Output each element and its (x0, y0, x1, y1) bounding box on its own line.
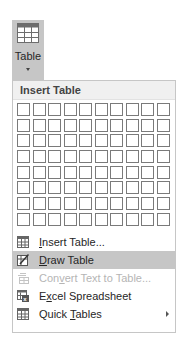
grid-cell[interactable] (157, 150, 170, 163)
menu-item-label: Quick Tables (39, 305, 102, 323)
grid-cell[interactable] (79, 181, 92, 194)
grid-cell[interactable] (17, 134, 30, 147)
insert-table-dropdown: Insert Table Insert Table... Draw Table (12, 80, 176, 333)
grid-cell[interactable] (64, 213, 77, 226)
grid-cell[interactable] (95, 197, 108, 210)
grid-cell[interactable] (64, 103, 77, 116)
grid-cell[interactable] (110, 119, 123, 132)
grid-cell[interactable] (141, 134, 154, 147)
grid-cell[interactable] (48, 103, 61, 116)
grid-cell[interactable] (157, 119, 170, 132)
grid-cell[interactable] (48, 213, 61, 226)
grid-cell[interactable] (33, 166, 46, 179)
quick-tables-icon (17, 308, 29, 320)
menu-item-draw-table[interactable]: Draw Table (13, 251, 175, 269)
grid-cell[interactable] (126, 213, 139, 226)
grid-cell[interactable] (110, 103, 123, 116)
table-button-label: Table (12, 50, 44, 62)
grid-cell[interactable] (79, 119, 92, 132)
grid-cell[interactable] (48, 134, 61, 147)
chevron-down-icon (26, 68, 30, 71)
table-icon (17, 23, 39, 43)
grid-cell[interactable] (126, 181, 139, 194)
grid-cell[interactable] (141, 181, 154, 194)
grid-cell[interactable] (126, 103, 139, 116)
excel-spreadsheet-icon: x (17, 290, 29, 302)
grid-cell[interactable] (33, 119, 46, 132)
grid-cell[interactable] (79, 197, 92, 210)
grid-cell[interactable] (17, 181, 30, 194)
grid-cell[interactable] (17, 119, 30, 132)
grid-cell[interactable] (95, 119, 108, 132)
grid-cell[interactable] (126, 150, 139, 163)
insert-table-icon (17, 236, 29, 248)
grid-cell[interactable] (141, 197, 154, 210)
grid-cell[interactable] (126, 197, 139, 210)
grid-cell[interactable] (157, 197, 170, 210)
grid-cell[interactable] (126, 134, 139, 147)
menu-item-convert-text-to-table[interactable]: Convert Text to Table... (13, 269, 175, 287)
grid-cell[interactable] (110, 166, 123, 179)
menu-item-insert-table[interactable]: Insert Table... (13, 233, 175, 251)
grid-cell[interactable] (33, 150, 46, 163)
grid-cell[interactable] (79, 213, 92, 226)
grid-cell[interactable] (48, 181, 61, 194)
table-size-grid[interactable] (17, 103, 170, 226)
grid-cell[interactable] (95, 166, 108, 179)
grid-cell[interactable] (110, 197, 123, 210)
grid-cell[interactable] (33, 181, 46, 194)
grid-cell[interactable] (79, 103, 92, 116)
grid-cell[interactable] (64, 134, 77, 147)
grid-cell[interactable] (48, 166, 61, 179)
menu-item-quick-tables[interactable]: Quick Tables (13, 305, 175, 323)
grid-cell[interactable] (95, 134, 108, 147)
grid-cell[interactable] (33, 134, 46, 147)
grid-cell[interactable] (48, 197, 61, 210)
grid-cell[interactable] (33, 197, 46, 210)
grid-cell[interactable] (141, 213, 154, 226)
grid-cell[interactable] (48, 119, 61, 132)
grid-cell[interactable] (126, 166, 139, 179)
grid-cell[interactable] (157, 166, 170, 179)
grid-cell[interactable] (157, 181, 170, 194)
grid-cell[interactable] (64, 150, 77, 163)
grid-cell[interactable] (79, 166, 92, 179)
grid-cell[interactable] (95, 181, 108, 194)
submenu-arrow-icon (166, 311, 169, 317)
grid-cell[interactable] (95, 213, 108, 226)
grid-cell[interactable] (33, 213, 46, 226)
draw-table-icon (17, 254, 29, 266)
table-ribbon-button[interactable]: Table (12, 20, 44, 81)
grid-cell[interactable] (141, 119, 154, 132)
grid-cell[interactable] (79, 150, 92, 163)
grid-cell[interactable] (33, 103, 46, 116)
grid-cell[interactable] (126, 119, 139, 132)
grid-cell[interactable] (110, 213, 123, 226)
grid-cell[interactable] (95, 150, 108, 163)
grid-cell[interactable] (64, 166, 77, 179)
convert-text-icon (17, 272, 29, 284)
grid-cell[interactable] (17, 103, 30, 116)
grid-cell[interactable] (17, 166, 30, 179)
grid-cell[interactable] (64, 197, 77, 210)
grid-cell[interactable] (157, 213, 170, 226)
grid-cell[interactable] (141, 150, 154, 163)
grid-cell[interactable] (17, 213, 30, 226)
grid-cell[interactable] (157, 134, 170, 147)
grid-cell[interactable] (48, 150, 61, 163)
grid-cell[interactable] (79, 134, 92, 147)
grid-cell[interactable] (64, 181, 77, 194)
menu-item-excel-spreadsheet[interactable]: x Excel Spreadsheet (13, 287, 175, 305)
menu-item-label: Convert Text to Table... (39, 269, 151, 287)
grid-cell[interactable] (141, 103, 154, 116)
grid-cell[interactable] (110, 181, 123, 194)
grid-cell[interactable] (157, 103, 170, 116)
grid-cell[interactable] (95, 103, 108, 116)
insert-table-header: Insert Table (13, 81, 175, 100)
grid-cell[interactable] (64, 119, 77, 132)
grid-cell[interactable] (110, 150, 123, 163)
grid-cell[interactable] (17, 197, 30, 210)
grid-cell[interactable] (141, 166, 154, 179)
grid-cell[interactable] (17, 150, 30, 163)
grid-cell[interactable] (110, 134, 123, 147)
